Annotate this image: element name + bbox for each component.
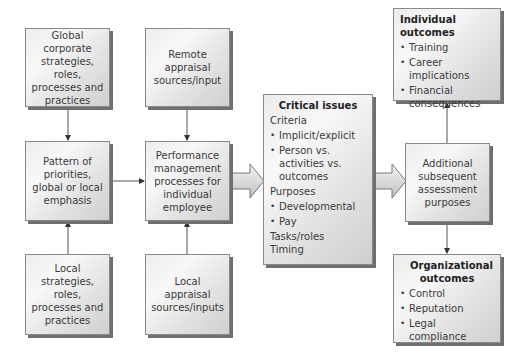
individual-outcomes-title: Individual outcomes — [400, 13, 494, 39]
critical-issues-bullet: •Implicit/explicit — [270, 129, 366, 142]
critical-issues-bullet: •Developmental — [270, 200, 366, 213]
bullet-icon: • — [400, 317, 409, 343]
individual-outcomes-bullet: •Career implications — [400, 56, 494, 82]
bullet-icon: • — [400, 56, 409, 82]
critical-issues-heading-purposes: Purposes — [270, 185, 366, 198]
box-remote-appraisal-label: Remote appraisal sources/input — [146, 48, 230, 87]
box-critical-issues: Critical issues Criteria •Implicit/expli… — [263, 94, 373, 265]
box-pattern-label: Pattern of priorities, global or local e… — [30, 155, 105, 207]
box-global-corporate: Global corporate strategies, roles, proc… — [25, 28, 110, 107]
critical-issues-bullet: •Person vs. activities vs. outcomes — [270, 144, 366, 183]
bullet-icon: • — [400, 287, 409, 300]
organizational-outcomes-bullet: •Control — [400, 287, 494, 300]
box-pattern: Pattern of priorities, global or local e… — [25, 141, 110, 221]
critical-issues-heading-tasks: Tasks/roles — [270, 230, 366, 243]
box-local-strategies-label: Local strategies, roles, processes and p… — [30, 262, 105, 327]
critical-issues-title: Critical issues — [270, 99, 366, 112]
box-local-strategies: Local strategies, roles, processes and p… — [25, 254, 110, 335]
bullet-icon: • — [400, 84, 409, 110]
box-remote-appraisal: Remote appraisal sources/input — [145, 28, 230, 107]
block-arrow-performance-to-critical — [230, 164, 264, 198]
organizational-outcomes-bullet: •Legal compliance — [400, 317, 494, 343]
box-additional-assessment: Additional subsequent assessment purpose… — [405, 143, 490, 222]
organizational-outcomes-bullet: •Reputation — [400, 302, 494, 315]
bullet-icon: • — [270, 129, 279, 142]
individual-outcomes-bullet: •Training — [400, 41, 494, 54]
box-additional-assessment-label: Additional subsequent assessment purpose… — [410, 157, 485, 209]
block-arrow-critical-to-additional — [373, 164, 406, 198]
critical-issues-heading-criteria: Criteria — [270, 114, 366, 127]
bullet-icon: • — [400, 302, 409, 315]
bullet-icon: • — [270, 200, 279, 213]
bullet-icon: • — [270, 215, 279, 228]
individual-outcomes-bullet: •Financial consequences — [400, 84, 494, 110]
box-individual-outcomes: Individual outcomes •Training •Career im… — [393, 8, 501, 101]
box-local-appraisal: Local appraisal sources/inputs — [145, 254, 230, 335]
bullet-icon: • — [270, 144, 279, 183]
critical-issues-heading-timing: Timing — [270, 243, 366, 256]
bullet-icon: • — [400, 41, 409, 54]
box-local-appraisal-label: Local appraisal sources/inputs — [150, 275, 225, 314]
box-performance-mgmt-label: Performance management processes for ind… — [150, 149, 225, 214]
box-performance-mgmt: Performance management processes for ind… — [145, 141, 230, 221]
box-global-corporate-label: Global corporate strategies, roles, proc… — [30, 29, 105, 107]
critical-issues-bullet: •Pay — [270, 215, 366, 228]
box-organizational-outcomes: Organizational outcomes •Control •Reputa… — [393, 254, 501, 343]
organizational-outcomes-title: Organizational outcomes — [400, 259, 494, 285]
